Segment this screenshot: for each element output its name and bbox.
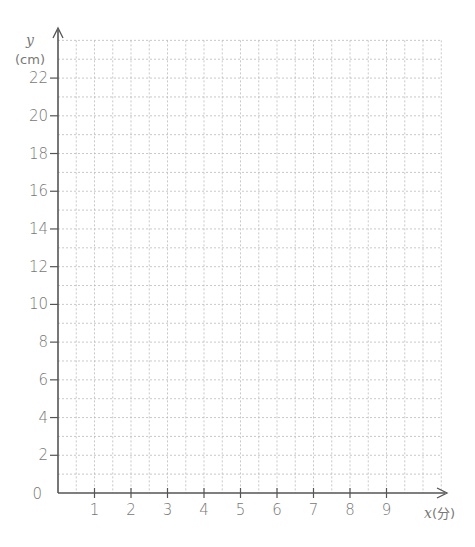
- blank-graph-chart: 123456789 246810121416182022 y (cm) 0 x …: [0, 0, 475, 547]
- x-tick-label: 5: [236, 501, 246, 519]
- y-tick-label: 22: [29, 69, 48, 87]
- y-tick-label: 10: [29, 295, 48, 313]
- axes: [53, 28, 447, 498]
- y-axis-unit: (cm): [15, 52, 45, 67]
- y-tick-label: 6: [38, 371, 48, 389]
- y-tick-label: 8: [38, 333, 48, 351]
- x-tick-label: 3: [163, 501, 173, 519]
- x-axis-unit: (分): [432, 506, 455, 521]
- y-axis-title: y: [25, 32, 35, 48]
- grid-lines: [58, 40, 441, 493]
- y-tick-label: 14: [29, 220, 48, 238]
- y-tick-label: 18: [29, 145, 48, 163]
- x-tick-label: 7: [309, 501, 319, 519]
- x-tick-label: 8: [345, 501, 355, 519]
- y-tick-label: 20: [29, 107, 48, 125]
- x-tick-label: 6: [272, 501, 282, 519]
- x-tick-label: 1: [90, 501, 100, 519]
- y-tick-label: 2: [38, 446, 48, 464]
- x-tick-label: 4: [199, 501, 209, 519]
- x-tick-label: 2: [126, 501, 136, 519]
- x-tick-label: 9: [382, 501, 392, 519]
- y-ticks: 246810121416182022: [29, 69, 58, 464]
- y-tick-label: 16: [29, 182, 48, 200]
- y-tick-label: 4: [38, 409, 48, 427]
- origin-label: 0: [32, 485, 42, 503]
- x-axis-title: x: [424, 505, 432, 521]
- y-tick-label: 12: [29, 258, 48, 276]
